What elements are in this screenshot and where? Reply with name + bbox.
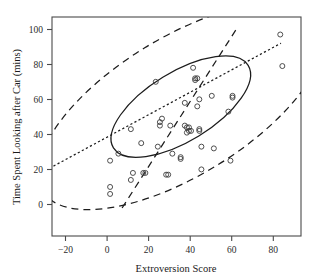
y-tick-label-3: 60: [34, 95, 44, 105]
data-point: [168, 123, 173, 128]
data-point: [209, 93, 214, 98]
data-point: [108, 158, 113, 163]
y-tick-label-4: 80: [34, 60, 44, 70]
data-point: [108, 184, 113, 189]
data-point: [195, 104, 200, 109]
x-tick-label-2: 20: [144, 245, 154, 255]
x-tick-label-1: 0: [105, 245, 110, 255]
data-point: [199, 167, 204, 172]
scatter-points: [108, 32, 285, 196]
data-point: [278, 32, 283, 37]
data-point: [228, 158, 233, 163]
plot-content: [7, 0, 314, 250]
major-axis-line: [122, 28, 237, 208]
data-point: [182, 100, 187, 105]
y-tick-marks: [47, 30, 52, 205]
plot-frame: [52, 17, 301, 236]
data-point: [128, 177, 133, 182]
y-tick-label-0: 0: [38, 200, 43, 210]
x-axis-title: Extroversion Score: [136, 263, 217, 274]
data-point: [130, 170, 135, 175]
y-tick-label-2: 40: [34, 130, 44, 140]
data-point: [108, 191, 113, 196]
x-axis: −20 0 20 40 60 80 Extroversion Score: [58, 236, 278, 274]
y-axis-title: Time Spent Looking after Car (mins): [11, 48, 23, 205]
x-tick-label-4: 60: [227, 245, 237, 255]
figure-page: −20 0 20 40 60 80 Extroversion Score 0: [0, 0, 314, 280]
data-point: [280, 64, 285, 69]
y-tick-label-1: 20: [34, 165, 44, 175]
data-point: [139, 141, 144, 146]
y-axis: 0 20 40 60 80 100 Time Spent Looking aft…: [11, 25, 52, 210]
x-tick-label-3: 40: [185, 245, 195, 255]
data-point: [191, 65, 196, 70]
data-point: [197, 97, 202, 102]
scatter-plot-figure: −20 0 20 40 60 80 Extroversion Score 0: [0, 0, 314, 280]
data-point: [199, 144, 204, 149]
y-tick-label-5: 100: [29, 25, 44, 35]
data-point: [211, 146, 216, 151]
data-point: [155, 144, 160, 149]
x-tick-label-5: 80: [269, 245, 279, 255]
x-tick-marks: [66, 236, 274, 241]
data-point: [128, 127, 133, 132]
plot-svg: −20 0 20 40 60 80 Extroversion Score 0: [0, 0, 314, 280]
regression-line: [54, 43, 282, 166]
x-tick-label-0: −20: [58, 245, 73, 255]
data-point: [170, 151, 175, 156]
